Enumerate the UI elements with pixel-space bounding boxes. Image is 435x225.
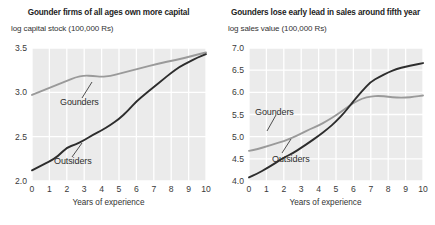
series-label-outsiders-sales: Outsiders [272, 154, 310, 164]
xaxis-title-sales: Years of experience [217, 198, 434, 207]
yaxis-tick-label: 2.5 [0, 132, 27, 142]
xaxis-tick-label: 7 [151, 184, 156, 194]
yaxis-tick-label: 4.0 [217, 176, 244, 186]
xaxis-tick-label: 0 [30, 184, 35, 194]
xaxis-tick-label: 3 [299, 184, 304, 194]
xaxis-tick-label: 5 [334, 184, 339, 194]
xaxis-tick-label: 1 [264, 184, 269, 194]
xaxis-tick-label: 1 [47, 184, 52, 194]
chart-panel-sales: Gounders lose early lead in sales around… [217, 0, 434, 225]
xaxis-tick-label: 7 [368, 184, 373, 194]
xaxis-tick-label: 9 [186, 184, 191, 194]
xaxis-tick-label: 3 [82, 184, 87, 194]
xaxis-tick-label: 10 [201, 184, 211, 194]
xaxis-tick-label: 6 [134, 184, 139, 194]
figure-root: Gounder firms of all ages own more capit… [0, 0, 435, 225]
panel-title-sales: Gounders lose early lead in sales around… [217, 8, 434, 18]
yaxis-unit-label-sales: log sales value (100,000 Rs) [228, 24, 327, 33]
yaxis-tick-label: 3.0 [0, 87, 27, 97]
leader-line-outsiders-sales [279, 139, 297, 155]
xaxis-title-capital: Years of experience [0, 198, 217, 207]
xaxis-tick-label: 4 [316, 184, 321, 194]
xaxis-tick-label: 0 [247, 184, 252, 194]
xaxis-tick-label: 10 [418, 184, 428, 194]
leader-line-gounders-sales [265, 115, 283, 133]
xaxis-tick-label: 6 [351, 184, 356, 194]
yaxis-tick-label: 4.5 [217, 154, 244, 164]
series-label-gounders-sales: Gounders [255, 107, 294, 117]
panel-title-capital: Gounder firms of all ages own more capit… [0, 8, 217, 18]
chart-panel-capital: Gounder firms of all ages own more capit… [0, 0, 217, 225]
xaxis-tick-label: 2 [281, 184, 286, 194]
yaxis-tick-label: 3.5 [0, 43, 27, 53]
xaxis-tick-label: 5 [117, 184, 122, 194]
yaxis-unit-label-capital: log capital stock (100,000 Rs) [11, 24, 113, 33]
xaxis-tick-label: 4 [99, 184, 104, 194]
xaxis-tick-label: 8 [169, 184, 174, 194]
yaxis-tick-label: 6.5 [217, 65, 244, 75]
yaxis-tick-label: 5.5 [217, 110, 244, 120]
yaxis-tick-label: 2.0 [0, 176, 27, 186]
xaxis-tick-label: 9 [403, 184, 408, 194]
yaxis-tick-label: 5.0 [217, 132, 244, 142]
series-label-gounders-capital: Gounders [60, 97, 99, 107]
xaxis-tick-label: 2 [64, 184, 69, 194]
xaxis-tick-label: 8 [386, 184, 391, 194]
yaxis-tick-label: 7.0 [217, 43, 244, 53]
yaxis-tick-label: 6.0 [217, 87, 244, 97]
series-label-outsiders-capital: Outsiders [54, 156, 92, 166]
